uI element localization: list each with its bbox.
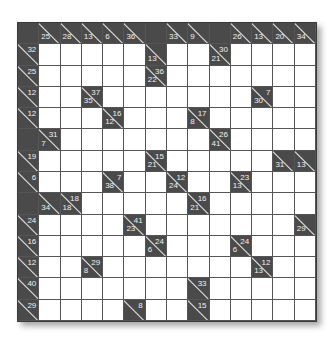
entry-cell[interactable] — [124, 172, 145, 193]
entry-cell[interactable] — [124, 193, 145, 214]
entry-cell[interactable] — [61, 300, 82, 321]
entry-cell[interactable] — [61, 257, 82, 278]
entry-cell[interactable] — [39, 151, 60, 172]
entry-cell[interactable] — [252, 66, 273, 87]
entry-cell[interactable] — [295, 257, 316, 278]
entry-cell[interactable] — [231, 257, 252, 278]
entry-cell[interactable] — [39, 87, 60, 108]
entry-cell[interactable] — [167, 108, 188, 129]
entry-cell[interactable] — [146, 172, 167, 193]
entry-cell[interactable] — [82, 66, 103, 87]
entry-cell[interactable] — [146, 108, 167, 129]
entry-cell[interactable] — [61, 108, 82, 129]
entry-cell[interactable] — [210, 257, 231, 278]
entry-cell[interactable] — [61, 129, 82, 150]
entry-cell[interactable] — [188, 44, 209, 65]
entry-cell[interactable] — [82, 172, 103, 193]
entry-cell[interactable] — [210, 66, 231, 87]
entry-cell[interactable] — [167, 151, 188, 172]
entry-cell[interactable] — [252, 44, 273, 65]
entry-cell[interactable] — [252, 215, 273, 236]
entry-cell[interactable] — [188, 151, 209, 172]
entry-cell[interactable] — [231, 300, 252, 321]
entry-cell[interactable] — [61, 278, 82, 299]
entry-cell[interactable] — [295, 87, 316, 108]
entry-cell[interactable] — [167, 44, 188, 65]
entry-cell[interactable] — [39, 257, 60, 278]
entry-cell[interactable] — [146, 278, 167, 299]
entry-cell[interactable] — [103, 87, 124, 108]
entry-cell[interactable] — [146, 87, 167, 108]
entry-cell[interactable] — [167, 129, 188, 150]
entry-cell[interactable] — [124, 129, 145, 150]
entry-cell[interactable] — [295, 129, 316, 150]
entry-cell[interactable] — [82, 193, 103, 214]
entry-cell[interactable] — [39, 108, 60, 129]
entry-cell[interactable] — [231, 215, 252, 236]
entry-cell[interactable] — [61, 172, 82, 193]
entry-cell[interactable] — [231, 66, 252, 87]
entry-cell[interactable] — [82, 129, 103, 150]
entry-cell[interactable] — [273, 44, 294, 65]
entry-cell[interactable] — [39, 44, 60, 65]
entry-cell[interactable] — [103, 129, 124, 150]
entry-cell[interactable] — [103, 257, 124, 278]
entry-cell[interactable] — [295, 236, 316, 257]
entry-cell[interactable] — [124, 278, 145, 299]
entry-cell[interactable] — [295, 193, 316, 214]
entry-cell[interactable] — [231, 151, 252, 172]
entry-cell[interactable] — [82, 151, 103, 172]
entry-cell[interactable] — [103, 278, 124, 299]
entry-cell[interactable] — [61, 44, 82, 65]
entry-cell[interactable] — [231, 108, 252, 129]
entry-cell[interactable] — [188, 129, 209, 150]
entry-cell[interactable] — [167, 278, 188, 299]
entry-cell[interactable] — [82, 215, 103, 236]
entry-cell[interactable] — [273, 236, 294, 257]
entry-cell[interactable] — [273, 257, 294, 278]
entry-cell[interactable] — [124, 44, 145, 65]
entry-cell[interactable] — [188, 172, 209, 193]
entry-cell[interactable] — [103, 151, 124, 172]
entry-cell[interactable] — [273, 87, 294, 108]
entry-cell[interactable] — [273, 193, 294, 214]
entry-cell[interactable] — [167, 257, 188, 278]
entry-cell[interactable] — [252, 278, 273, 299]
entry-cell[interactable] — [82, 108, 103, 129]
entry-cell[interactable] — [210, 87, 231, 108]
entry-cell[interactable] — [39, 300, 60, 321]
entry-cell[interactable] — [252, 236, 273, 257]
entry-cell[interactable] — [39, 172, 60, 193]
entry-cell[interactable] — [61, 87, 82, 108]
entry-cell[interactable] — [103, 66, 124, 87]
entry-cell[interactable] — [124, 66, 145, 87]
entry-cell[interactable] — [146, 215, 167, 236]
entry-cell[interactable] — [103, 300, 124, 321]
entry-cell[interactable] — [82, 44, 103, 65]
entry-cell[interactable] — [167, 193, 188, 214]
entry-cell[interactable] — [188, 66, 209, 87]
entry-cell[interactable] — [103, 236, 124, 257]
entry-cell[interactable] — [82, 278, 103, 299]
entry-cell[interactable] — [210, 215, 231, 236]
entry-cell[interactable] — [210, 193, 231, 214]
entry-cell[interactable] — [167, 215, 188, 236]
entry-cell[interactable] — [295, 66, 316, 87]
entry-cell[interactable] — [273, 215, 294, 236]
entry-cell[interactable] — [188, 87, 209, 108]
entry-cell[interactable] — [39, 66, 60, 87]
entry-cell[interactable] — [210, 300, 231, 321]
entry-cell[interactable] — [61, 236, 82, 257]
entry-cell[interactable] — [231, 87, 252, 108]
entry-cell[interactable] — [295, 278, 316, 299]
entry-cell[interactable] — [273, 278, 294, 299]
entry-cell[interactable] — [295, 108, 316, 129]
entry-cell[interactable] — [103, 215, 124, 236]
entry-cell[interactable] — [39, 236, 60, 257]
entry-cell[interactable] — [231, 193, 252, 214]
entry-cell[interactable] — [273, 66, 294, 87]
entry-cell[interactable] — [252, 193, 273, 214]
entry-cell[interactable] — [39, 215, 60, 236]
entry-cell[interactable] — [210, 108, 231, 129]
entry-cell[interactable] — [61, 215, 82, 236]
